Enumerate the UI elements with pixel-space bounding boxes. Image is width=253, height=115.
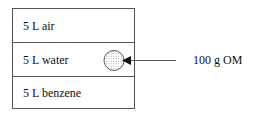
arrow-icon [122, 56, 176, 65]
input-label: 100 g OM [193, 53, 242, 68]
om-particle-icon [104, 51, 124, 71]
